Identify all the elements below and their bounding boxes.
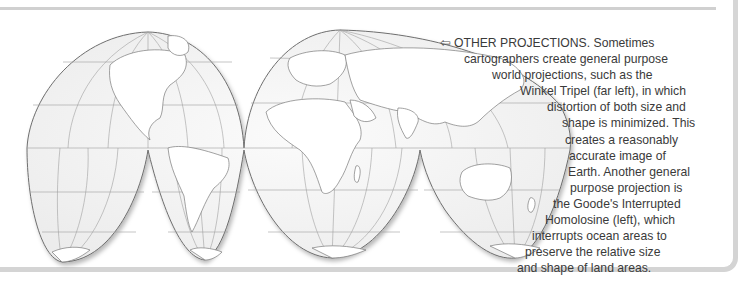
caption-heading: OTHER PROJECTIONS.: [454, 36, 590, 50]
caption-line: Sometimes: [594, 36, 655, 50]
caption-line: and shape of land areas.: [440, 260, 730, 276]
caption-line: interrupts ocean areas to: [440, 228, 730, 244]
caption-line: creates a reasonably: [440, 132, 730, 148]
caption-line: world projections, such as the: [440, 67, 730, 83]
left-arrow-icon: ⇦: [440, 35, 451, 50]
caption-line: preserve the relative size: [440, 244, 730, 260]
caption-line: the Goode's Interrupted: [440, 196, 730, 212]
caption-line: cartographers create general purpose: [440, 51, 730, 67]
caption-line: Earth. Another general: [440, 164, 730, 180]
caption-text-block: ⇦OTHER PROJECTIONS. Sometimes cartograph…: [440, 35, 730, 276]
caption-line: Homolosine (left), which: [440, 212, 730, 228]
greenland: [168, 36, 189, 56]
caption-line: accurate image of: [440, 148, 730, 164]
caption-line: distortion of both size and: [440, 99, 730, 115]
caption-line: Winkel Tripel (far left), in which: [440, 83, 730, 99]
caption-line: purpose projection is: [440, 180, 730, 196]
caption-line: shape is minimized. This: [440, 115, 730, 131]
